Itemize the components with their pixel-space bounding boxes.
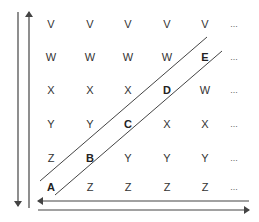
grid-cell: V (78, 18, 102, 30)
grid-cell: X (116, 84, 140, 96)
grid-cell: ... (222, 118, 246, 130)
grid-cell: Y (78, 118, 102, 130)
diagonal-cell: D (155, 84, 179, 96)
grid-cell: X (78, 84, 102, 96)
grid-cell: Z (193, 181, 217, 193)
grid-cell: ... (222, 18, 246, 30)
grid-cell: ... (222, 152, 246, 164)
grid-cell: V (116, 18, 140, 30)
grid-cell: W (193, 84, 217, 96)
grid-cell: W (78, 51, 102, 63)
grid-cell: V (155, 18, 179, 30)
grid-cell: Z (39, 152, 63, 164)
diagonal-cell: E (193, 51, 217, 63)
grid-cell: V (39, 18, 63, 30)
grid-cell: X (39, 84, 63, 96)
grid-cell: W (39, 51, 63, 63)
grid-cell: X (155, 118, 179, 130)
diagonal-cell: A (39, 181, 63, 193)
grid-cell: ... (222, 181, 246, 193)
grid-cell: W (116, 51, 140, 63)
grid-cell: W (155, 51, 179, 63)
grid-cell: Z (155, 181, 179, 193)
grid-cell: Y (116, 152, 140, 164)
diagonal-cell: B (78, 152, 102, 164)
grid-cell: Y (155, 152, 179, 164)
grid-cell: X (193, 118, 217, 130)
grid-cell: ... (222, 51, 246, 63)
grid-cell: Y (39, 118, 63, 130)
grid-cell: Y (193, 152, 217, 164)
diagonal-cell: C (116, 118, 140, 130)
grid-cell: Z (116, 181, 140, 193)
grid-cell: Z (78, 181, 102, 193)
grid-cell: ... (222, 84, 246, 96)
grid-cell: V (193, 18, 217, 30)
